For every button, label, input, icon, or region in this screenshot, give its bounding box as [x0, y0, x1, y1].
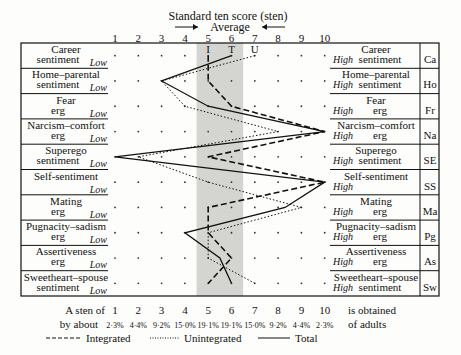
grid-dot — [324, 156, 326, 158]
arrowhead-icon — [193, 24, 198, 30]
factor-label-high: erg — [373, 230, 387, 242]
factor-code: Ho — [423, 78, 437, 90]
factor-label-high: erg — [373, 129, 387, 141]
grid-dot — [254, 105, 256, 107]
grid-dot — [137, 232, 139, 234]
grid-dot — [324, 282, 326, 284]
arrowhead-icon — [262, 24, 267, 30]
grid-dot — [277, 80, 279, 82]
grid-dot — [184, 257, 186, 259]
factor-label-high: sentiment — [359, 53, 402, 65]
grid-dot — [301, 80, 303, 82]
grid-dot — [231, 131, 233, 133]
factor-label-low: Assertiveness — [36, 245, 97, 257]
factor-code: Pg — [424, 230, 436, 242]
x-tick: 8 — [275, 32, 281, 44]
grid-dot — [137, 257, 139, 259]
grid-dot — [254, 80, 256, 82]
grid-dot — [277, 181, 279, 183]
factor-label-low: erg — [51, 129, 65, 141]
percentage: 19·1% — [198, 321, 220, 330]
factor-label-high: erg — [373, 104, 387, 116]
grid-dot — [114, 55, 116, 57]
legend-integrated: Integrated — [86, 332, 131, 344]
low-label: Low — [89, 133, 108, 144]
percentage: 9·2% — [153, 321, 171, 330]
grid-dot — [184, 156, 186, 158]
factor-code: Sw — [423, 281, 437, 293]
grid-dot — [184, 55, 186, 57]
grid-dot — [324, 207, 326, 209]
grid-dot — [301, 105, 303, 107]
high-label: High — [332, 181, 353, 192]
grid-dot — [324, 232, 326, 234]
grid-dot — [254, 156, 256, 158]
factor-label-high: sentiment — [359, 78, 402, 90]
grid-dot — [114, 105, 116, 107]
factor-label-low: erg — [51, 104, 65, 116]
factor-label-high: Self-sentiment — [344, 170, 408, 182]
grid-dot — [114, 131, 116, 133]
grid-dot — [161, 55, 163, 57]
high-label: High — [332, 79, 353, 90]
by-about-label: by about — [60, 318, 98, 330]
low-label: Low — [89, 209, 108, 220]
grid-dot — [184, 181, 186, 183]
factor-label-high: erg — [373, 205, 387, 217]
sten-label: A sten of — [65, 304, 105, 316]
footer-tick: 6 — [229, 304, 235, 316]
factor-label-low: Self-sentiment — [34, 170, 98, 182]
footer-tick: 10 — [319, 304, 331, 316]
footer-tick: 3 — [159, 304, 165, 316]
grid-dot — [161, 232, 163, 234]
column-marker: U — [251, 43, 259, 55]
factor-label-high: sentiment — [359, 154, 402, 166]
factor-label-low: sentiment — [37, 281, 80, 293]
percentage: 15·0% — [244, 321, 266, 330]
grid-dot — [161, 207, 163, 209]
grid-dot — [277, 55, 279, 57]
x-tick: 2 — [136, 32, 142, 44]
grid-dot — [231, 232, 233, 234]
grid-dot — [137, 80, 139, 82]
grid-dot — [254, 131, 256, 133]
percentage: 4·4% — [293, 321, 311, 330]
factor-code: Ca — [424, 53, 436, 65]
factor-label-high: erg — [373, 255, 387, 267]
factor-label-low: Pugnacity–sadism — [26, 220, 106, 232]
grid-dot — [161, 105, 163, 107]
grid-dot — [324, 80, 326, 82]
chart-canvas: Standard ten score (sten)Average12345678… — [0, 0, 461, 355]
percentage: 15·0% — [174, 321, 196, 330]
factor-label-low: Narcism–comfort — [27, 119, 105, 131]
factor-label-low: sentiment — [37, 154, 80, 166]
grid-dot — [137, 131, 139, 133]
x-tick: 3 — [159, 32, 165, 44]
low-label: Low — [89, 82, 108, 93]
grid-dot — [137, 55, 139, 57]
low-label: Low — [89, 184, 108, 195]
grid-dot — [184, 282, 186, 284]
factor-code: Fr — [425, 104, 435, 116]
grid-dot — [231, 207, 233, 209]
low-label: Low — [89, 158, 108, 169]
grid-dot — [137, 105, 139, 107]
grid-dot — [324, 105, 326, 107]
grid-dot — [114, 232, 116, 234]
grid-dot — [324, 257, 326, 259]
grid-dot — [301, 282, 303, 284]
high-label: High — [332, 105, 353, 116]
grid-dot — [301, 131, 303, 133]
low-label: Low — [89, 234, 108, 245]
grid-dot — [301, 55, 303, 57]
grid-dot — [254, 181, 256, 183]
grid-dot — [254, 207, 256, 209]
grid-dot — [184, 131, 186, 133]
low-label: Low — [89, 259, 108, 270]
grid-dot — [137, 282, 139, 284]
grid-dot — [207, 80, 209, 82]
grid-dot — [254, 257, 256, 259]
factor-code: SS — [424, 180, 436, 192]
footer-tick: 8 — [275, 304, 281, 316]
grid-dot — [114, 80, 116, 82]
